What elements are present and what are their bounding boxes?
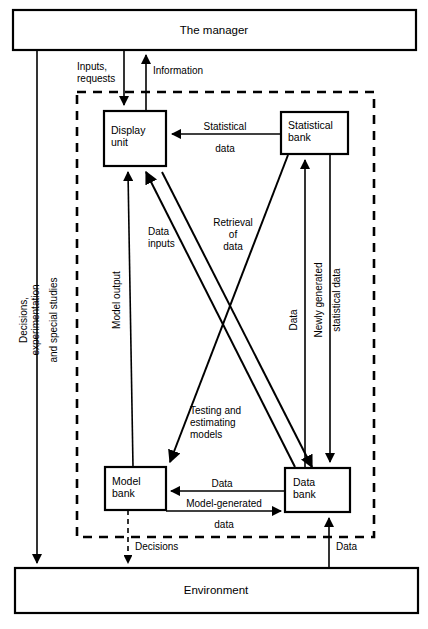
statistical-bank-label-line1: Statistical bbox=[288, 119, 333, 131]
mis-flow-diagram: The manager Environment Display unit Sta… bbox=[0, 0, 428, 629]
edge-statistical-data-label-line2: data bbox=[215, 143, 235, 154]
edge-newly-generated-label-line1: Newly generated bbox=[313, 262, 324, 337]
edge-data-inputs-label-line1: Data bbox=[148, 226, 170, 237]
edge-model-output bbox=[128, 172, 133, 467]
edge-decisions-experimentation-label-line3: and special studies bbox=[48, 277, 59, 362]
edge-data-bottom-label: Data bbox=[336, 541, 358, 552]
environment-box-label: Environment bbox=[184, 584, 249, 596]
edge-model-output-label: Model output bbox=[111, 271, 122, 329]
edge-data-vertical-label: Data bbox=[288, 309, 299, 331]
edge-inputs-requests-label-line2: requests bbox=[77, 73, 115, 84]
edge-decisions-experimentation-label-line1: Decisions, bbox=[18, 297, 29, 343]
edge-newly-generated-label-line2: statistical data bbox=[331, 268, 342, 332]
manager-box-label: The manager bbox=[180, 24, 249, 36]
edge-model-generated-label-line1: Model-generated bbox=[186, 498, 262, 509]
edge-inputs-requests-label-line1: Inputs, bbox=[77, 61, 107, 72]
edge-data-inputs-label-line2: inputs bbox=[148, 238, 175, 249]
display-unit-label-line2: unit bbox=[111, 136, 128, 148]
edge-model-generated-label-line2: data bbox=[214, 519, 234, 530]
edge-information-label: Information bbox=[153, 65, 203, 76]
data-bank-label-line1: Data bbox=[293, 476, 315, 488]
edge-decisions-experimentation-label-line2: experimentation bbox=[30, 284, 41, 355]
edge-testing-estimating-label-line1: Testing and bbox=[190, 405, 241, 416]
edge-decisions-bottom-label: Decisions bbox=[135, 541, 178, 552]
edge-retrieval-of-data-label-line1: Retrieval bbox=[213, 217, 252, 228]
edge-testing-estimating-label-line3: models bbox=[190, 429, 222, 440]
edge-testing-estimating-label-line2: estimating bbox=[190, 417, 236, 428]
data-bank-label-line2: bank bbox=[293, 488, 317, 500]
display-unit-label-line1: Display bbox=[111, 124, 146, 136]
edge-retrieval-of-data-label-line3: data bbox=[223, 241, 243, 252]
diagram-canvas: The manager Environment Display unit Sta… bbox=[0, 0, 428, 629]
model-bank-label-line2: bank bbox=[112, 487, 136, 499]
edge-data-between-banks-label: Data bbox=[211, 478, 233, 489]
statistical-bank-label-line2: bank bbox=[288, 131, 312, 143]
edge-statistical-data-label-line1: Statistical bbox=[204, 121, 247, 132]
model-bank-label-line1: Model bbox=[112, 475, 141, 487]
edge-retrieval-of-data-label-line2: of bbox=[229, 229, 238, 240]
